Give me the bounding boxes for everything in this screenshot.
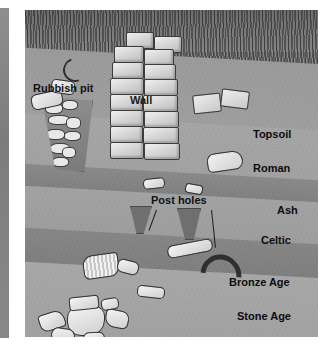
layer-label-topsoil: Topsoil [253, 128, 291, 140]
layer-label-celtic: Celtic [261, 234, 291, 246]
layer-label-roman: Roman [253, 162, 290, 174]
cross-section-illustration: Wall Rubbish pit Post hol [25, 10, 318, 337]
layer-label-bronze-age: Bronze Age [229, 276, 290, 288]
wall-label: Wall [130, 94, 152, 106]
left-edge-tab [0, 8, 9, 338]
layer-label-stone-age: Stone Age [237, 310, 291, 322]
fallen-block [192, 93, 222, 115]
stone-wall: Wall [110, 32, 186, 162]
illustration-stage: Wall Rubbish pit Post hol [0, 0, 325, 352]
fallen-block [220, 88, 250, 109]
pot-sherd [83, 331, 106, 337]
post-holes-label: Post holes [151, 194, 207, 206]
layer-label-ash: Ash [277, 204, 298, 216]
rubbish-pit-label: Rubbish pit [33, 82, 94, 94]
